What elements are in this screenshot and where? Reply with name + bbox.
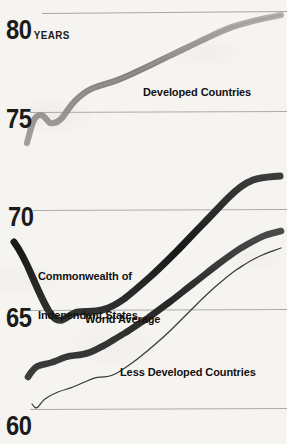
series-label-commonwealth-independent-states: Commonwealth of Independent States bbox=[38, 244, 138, 348]
series-label-cis-line1: Commonwealth of bbox=[38, 270, 138, 283]
y-axis-tick-75: 75 bbox=[6, 106, 32, 133]
y-axis-tick-80: 80YEARS bbox=[6, 17, 69, 44]
gridline-80 bbox=[42, 12, 287, 14]
y-axis-tick-65: 65 bbox=[6, 305, 32, 332]
life-expectancy-chart: 80YEARS 75 70 65 60 Developed Countries … bbox=[0, 0, 287, 444]
y-axis-unit-label: YEARS bbox=[34, 30, 70, 41]
y-axis-tick-70: 70 bbox=[8, 204, 34, 231]
gridline-60 bbox=[30, 409, 287, 410]
series-label-developed-countries: Developed Countries bbox=[143, 86, 251, 99]
gridline-70 bbox=[33, 210, 287, 211]
series-label-world-average: World Average bbox=[85, 313, 160, 326]
series-label-less-developed-countries: Less Developed Countries bbox=[120, 366, 256, 379]
y-axis-tick-80-value: 80 bbox=[6, 15, 32, 45]
y-axis-tick-60: 60 bbox=[6, 413, 32, 440]
gridlines bbox=[30, 12, 287, 410]
